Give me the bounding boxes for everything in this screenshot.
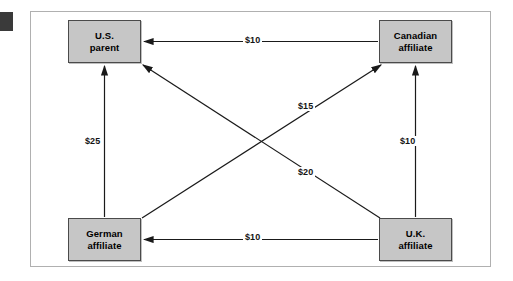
node-german-affiliate[interactable]: German affiliate [68,218,141,261]
node-us-parent-line1: U.S. [95,30,114,42]
node-german-affiliate-line1: German [86,228,123,240]
node-us-parent[interactable]: U.S. parent [68,20,141,63]
diagram-page: U.S. parent Canadian affiliate German af… [0,0,513,281]
node-canadian-affiliate[interactable]: Canadian affiliate [379,20,452,63]
node-uk-affiliate-line1: U.K. [406,228,425,240]
edge-label-uk-to-canada: $10 [398,136,417,146]
edge-label-uk-to-germany: $10 [243,232,262,242]
edge-label-germany-to-canada: $15 [296,101,315,111]
node-german-affiliate-line2: affiliate [87,240,121,252]
node-canadian-affiliate-line1: Canadian [394,30,438,42]
edge-label-canada-to-us: $10 [243,35,262,45]
node-uk-affiliate[interactable]: U.K. affiliate [379,218,452,261]
node-canadian-affiliate-line2: affiliate [398,42,432,54]
edge-label-germany-to-us: $25 [83,136,102,146]
edge-label-uk-to-us: $20 [296,167,315,177]
node-us-parent-line2: parent [90,42,120,54]
node-uk-affiliate-line2: affiliate [398,240,432,252]
